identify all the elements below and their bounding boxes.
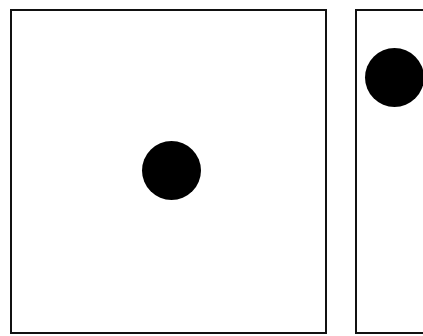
right-panel <box>355 9 423 334</box>
black-dot <box>365 48 423 107</box>
left-panel <box>10 9 327 334</box>
black-dot <box>142 141 201 200</box>
